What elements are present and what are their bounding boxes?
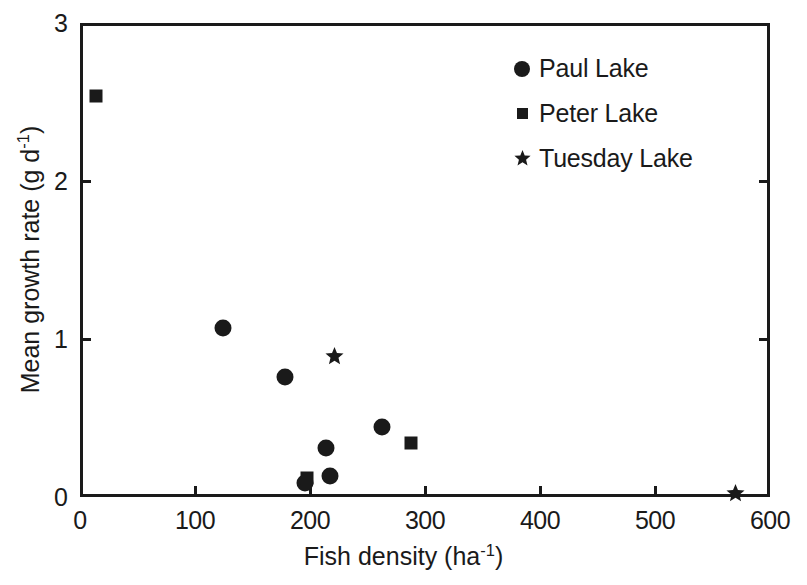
data-point-square-icon — [300, 472, 313, 485]
x-tick-label: 200 — [290, 506, 330, 535]
data-point-square-icon — [90, 89, 103, 102]
legend-square-icon — [505, 108, 539, 119]
legend-star-icon — [505, 150, 539, 167]
x-tick-mark — [654, 486, 657, 497]
y-axis-label-text: Mean growth rate (g d — [16, 149, 44, 394]
x-tick-label: 300 — [405, 506, 445, 535]
scatter-plot-figure: 0100200300400500600 0123 Fish density (h… — [0, 0, 807, 585]
y-tick-mark-right — [759, 338, 770, 341]
x-axis-label: Fish density (ha-1) — [0, 542, 807, 571]
y-tick-mark — [80, 338, 91, 341]
data-point-circle-icon — [276, 368, 293, 385]
data-point-circle-icon — [321, 468, 338, 485]
legend-circle-icon — [505, 61, 539, 77]
x-axis-label-text: Fish density (ha — [304, 542, 480, 570]
legend-label: Paul Lake — [539, 54, 648, 83]
x-tick-label: 500 — [635, 506, 675, 535]
x-tick-label: 100 — [175, 506, 215, 535]
x-axis-label-exponent: -1 — [480, 541, 495, 559]
data-point-circle-icon — [318, 440, 335, 457]
y-axis-label: Mean growth rate (g d-1) — [16, 0, 45, 520]
legend-entry: Tuesday Lake — [505, 136, 735, 181]
x-axis-label-tail: ) — [495, 542, 503, 570]
x-tick-mark — [539, 486, 542, 497]
x-tick-mark — [194, 486, 197, 497]
y-axis-label-tail: ) — [16, 126, 44, 134]
x-tick-label: 400 — [520, 506, 560, 535]
x-tick-label: 600 — [750, 506, 790, 535]
legend-entry: Paul Lake — [505, 46, 735, 91]
legend-label: Peter Lake — [539, 99, 658, 128]
data-point-square-icon — [405, 437, 418, 450]
y-tick-mark — [80, 180, 91, 183]
y-tick-mark-right — [759, 180, 770, 183]
legend-entry: Peter Lake — [505, 91, 735, 136]
legend: Paul LakePeter LakeTuesday Lake — [505, 46, 735, 181]
x-tick-mark — [424, 486, 427, 497]
legend-label: Tuesday Lake — [539, 144, 693, 173]
y-axis-label-exponent: -1 — [14, 134, 32, 149]
data-point-circle-icon — [214, 319, 231, 336]
data-point-circle-icon — [374, 419, 391, 436]
x-tick-label: 0 — [73, 506, 86, 535]
